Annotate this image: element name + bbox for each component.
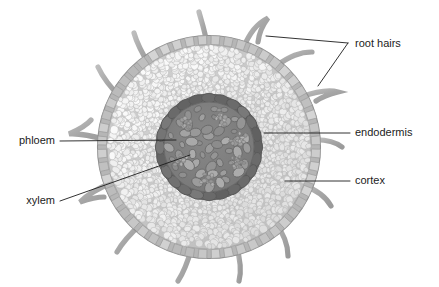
xylem-vessel [179, 172, 187, 178]
phloem-cell [183, 124, 186, 128]
label-root-hairs: root hairs [355, 37, 401, 49]
phloem-cell [180, 162, 183, 166]
phloem-cell [223, 115, 228, 119]
phloem-cell [202, 173, 206, 176]
epidermis-cell [185, 247, 195, 257]
leader-root-hairs-b [318, 43, 348, 86]
phloem-cell [179, 154, 183, 157]
epidermis-cell [224, 247, 234, 257]
cortex-cell [145, 155, 150, 161]
root-cross-section-diagram: root hairs endodermis cortex phloem xyle… [0, 0, 439, 287]
epidermis-cell [198, 36, 207, 46]
phloem-cell [202, 179, 207, 183]
phloem-cell [188, 126, 192, 129]
label-endodermis: endodermis [355, 126, 413, 138]
xylem-vessel [225, 148, 233, 154]
phloem-cell [229, 161, 233, 164]
diagram-canvas: root hairs endodermis cortex phloem xyle… [0, 0, 439, 287]
cortex-cell [241, 57, 246, 63]
cortex-cell [111, 118, 117, 124]
epidermis-cell [198, 249, 207, 259]
label-phloem: phloem [19, 134, 55, 146]
phloem-cell [235, 162, 239, 166]
phloem-cell [238, 132, 241, 136]
phloem-cell [183, 116, 187, 120]
label-cortex: cortex [355, 174, 385, 186]
epidermis-cell [211, 36, 220, 46]
phloem-cell [219, 124, 222, 127]
xylem-vessel [231, 129, 237, 134]
label-xylem: xylem [26, 194, 55, 206]
phloem-cell [231, 156, 234, 159]
phloem-cell [173, 163, 177, 166]
phloem-cell [244, 133, 247, 137]
epidermis-cell [311, 136, 321, 145]
epidermis-cell [99, 162, 109, 172]
phloem-cell [238, 155, 241, 158]
epidermis-cell [211, 249, 220, 259]
epidermis-cell [99, 123, 109, 133]
phloem-cell [238, 166, 243, 168]
epidermis-cell [185, 37, 195, 47]
phloem-cell [209, 180, 213, 183]
cortex-cell [212, 207, 217, 212]
leader-root-hairs-a [266, 36, 348, 43]
epidermis-cell [309, 161, 319, 171]
cortex-cell [195, 240, 203, 248]
phloem-cell [187, 122, 190, 125]
cortex-cell [202, 209, 207, 214]
cortex-cell [158, 58, 163, 63]
phloem-cell [242, 162, 246, 164]
cortex-cell [109, 152, 115, 160]
phloem-cell [215, 117, 218, 121]
epidermis-cell [223, 37, 233, 47]
phloem-cell [231, 141, 234, 145]
xylem-vessel [221, 107, 229, 112]
cortex-cell [282, 207, 287, 212]
epidermis-cell [311, 149, 321, 158]
xylem-vessel [189, 149, 196, 159]
phloem-cell [217, 109, 222, 112]
phloem-cell [223, 122, 228, 126]
phloem-cell [219, 116, 222, 120]
epidermis-cell [98, 149, 108, 158]
epidermis-cell [309, 123, 319, 133]
phloem-cell [238, 139, 241, 143]
